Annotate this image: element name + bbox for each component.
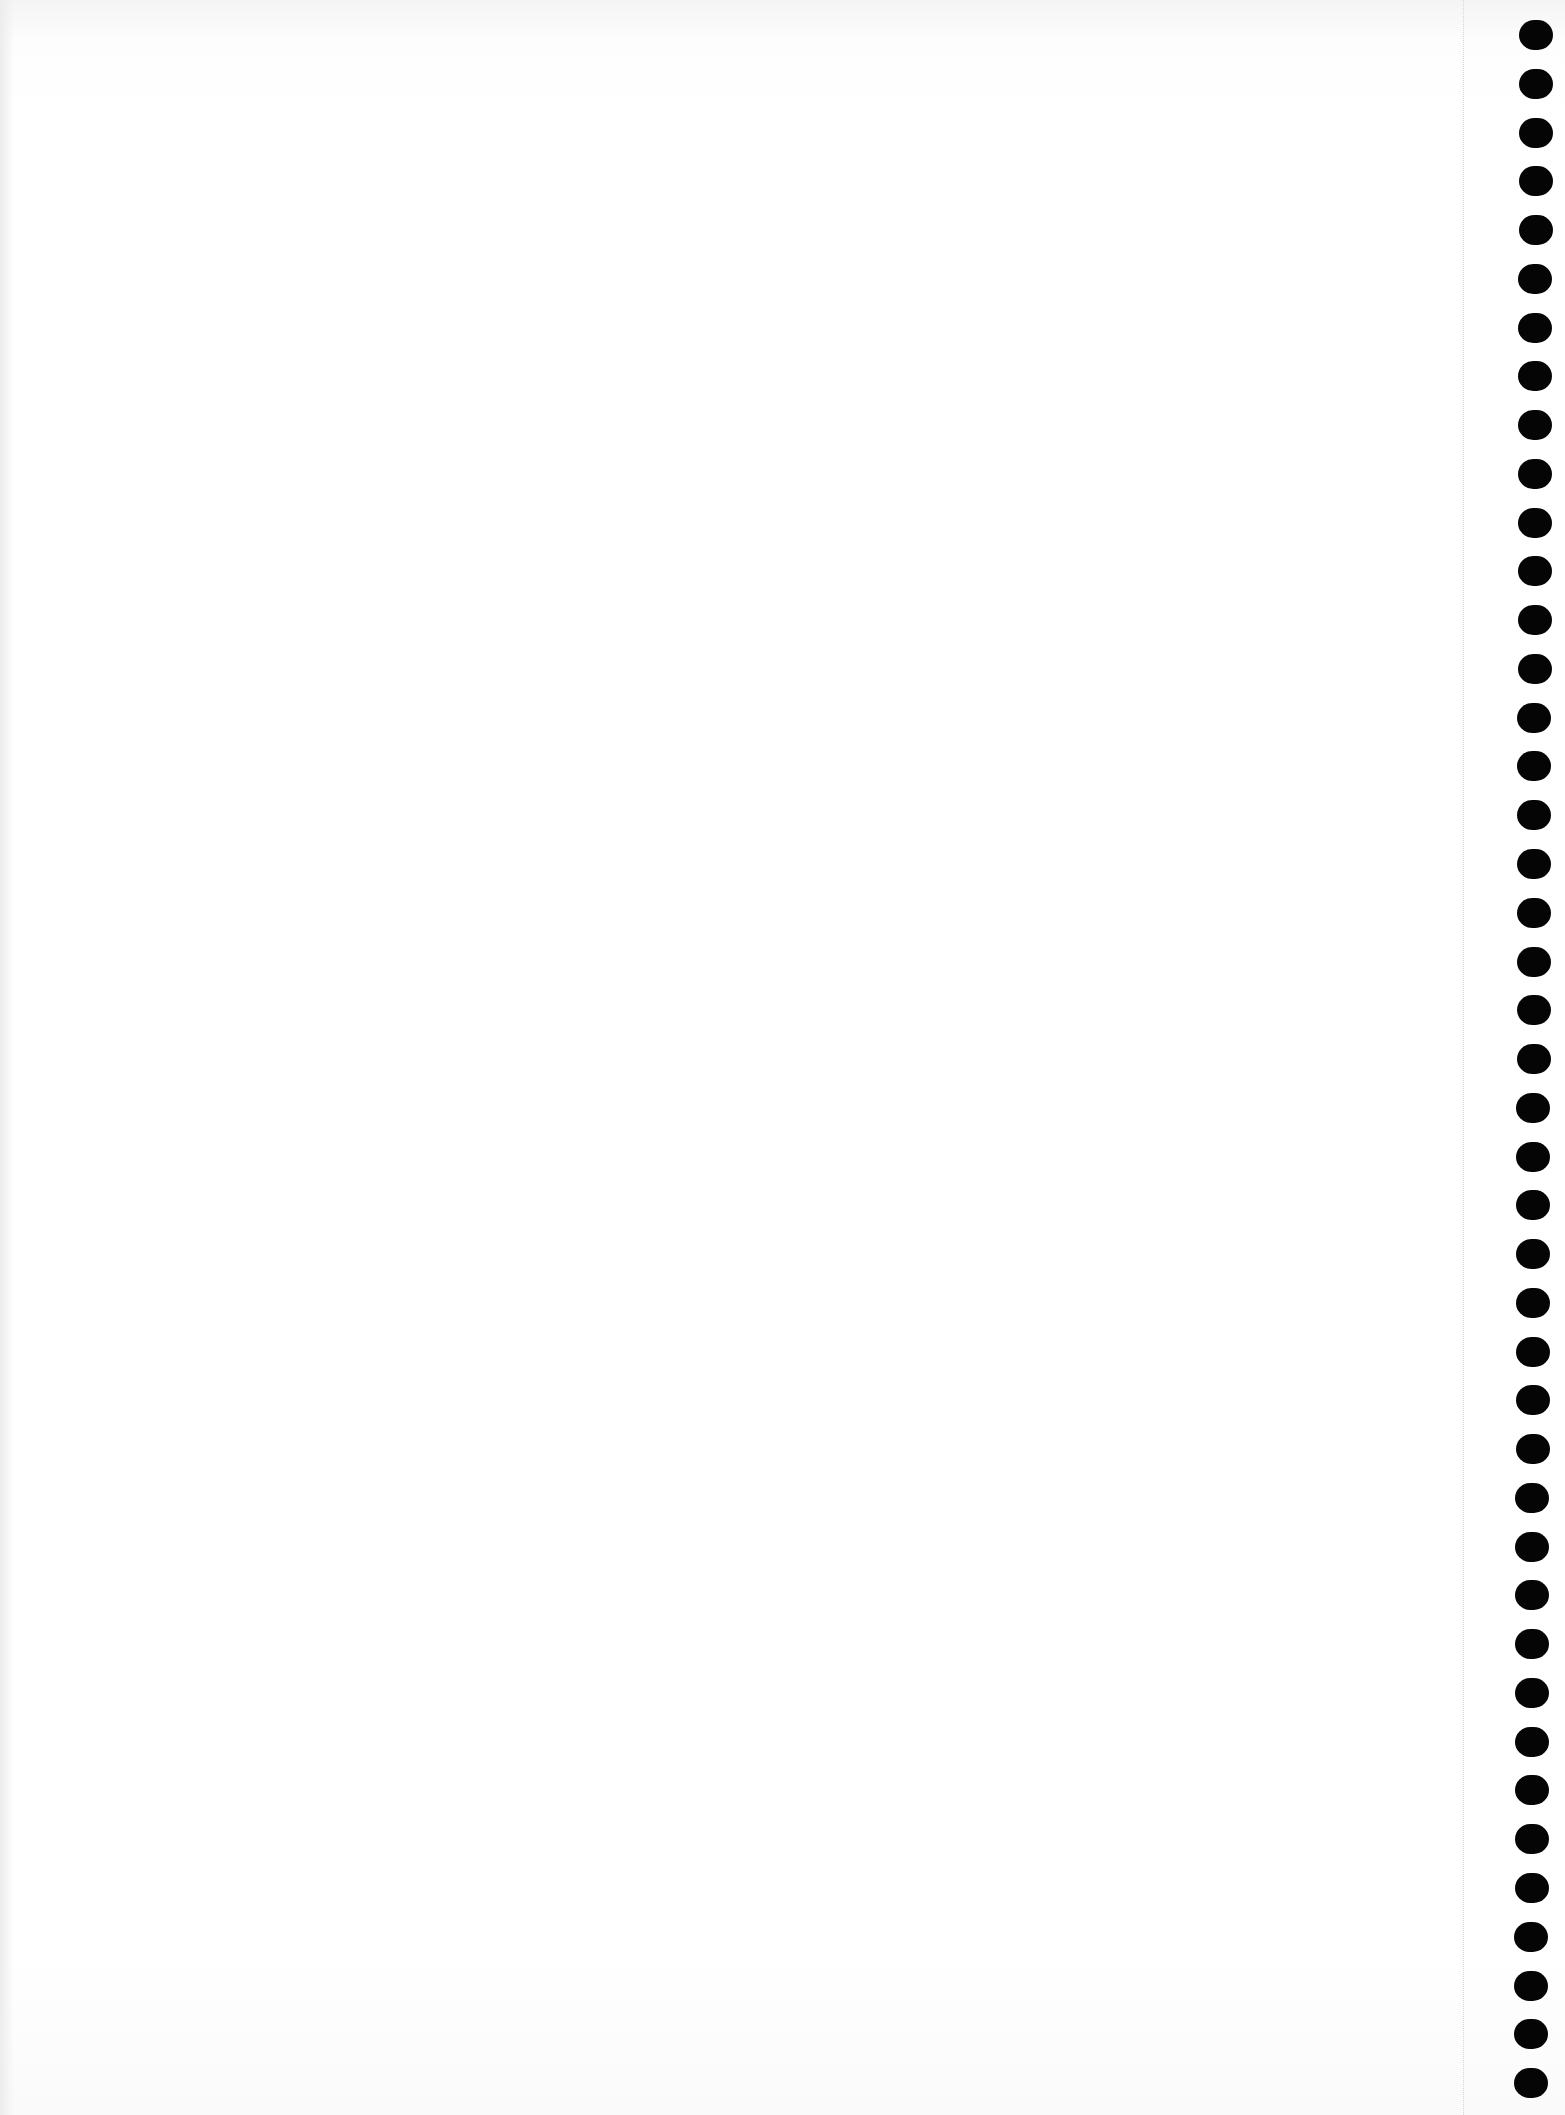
binding-hole (1515, 1873, 1549, 1903)
binding-hole (1516, 1190, 1550, 1220)
notebook-page (0, 0, 1565, 2115)
binding-hole (1517, 751, 1551, 781)
binding-hole (1514, 1922, 1548, 1952)
binding-hole (1518, 654, 1552, 684)
binding-hole (1518, 264, 1552, 294)
binding-hole (1517, 995, 1551, 1025)
binding-hole (1516, 1142, 1550, 1172)
binding-hole (1516, 1288, 1550, 1318)
binding-hole (1518, 459, 1552, 489)
binding-hole (1517, 898, 1551, 928)
binding-hole (1515, 1775, 1549, 1805)
binding-hole (1518, 313, 1552, 343)
binding-hole (1515, 1678, 1549, 1708)
binding-hole (1515, 1483, 1549, 1513)
binding-hole (1517, 849, 1551, 879)
binding-hole (1516, 1434, 1550, 1464)
binding-hole (1516, 1239, 1550, 1269)
binding-hole (1518, 410, 1552, 440)
binding-hole (1517, 1044, 1551, 1074)
binding-hole (1518, 361, 1552, 391)
binding-hole (1517, 800, 1551, 830)
binding-hole (1514, 2019, 1548, 2049)
binding-hole (1519, 166, 1553, 196)
binding-hole (1519, 215, 1553, 245)
binding-hole (1514, 2068, 1548, 2098)
binding-hole (1519, 20, 1553, 50)
spiral-binding-holes (0, 0, 1565, 2115)
binding-hole (1517, 947, 1551, 977)
binding-hole (1515, 1532, 1549, 1562)
binding-hole (1515, 1629, 1549, 1659)
binding-hole (1515, 1727, 1549, 1757)
binding-hole (1516, 1385, 1550, 1415)
binding-hole (1518, 605, 1552, 635)
binding-hole (1519, 118, 1553, 148)
binding-hole (1518, 556, 1552, 586)
binding-hole (1517, 703, 1551, 733)
binding-hole (1515, 1824, 1549, 1854)
binding-hole (1514, 1971, 1548, 2001)
binding-hole (1515, 1580, 1549, 1610)
binding-hole (1516, 1337, 1550, 1367)
binding-hole (1519, 69, 1553, 99)
binding-hole (1516, 1093, 1550, 1123)
binding-hole (1518, 508, 1552, 538)
